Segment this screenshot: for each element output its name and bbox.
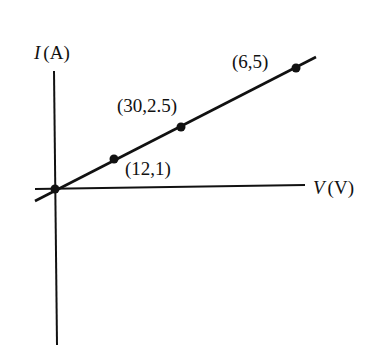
point-label-12-1: (12,1) xyxy=(125,158,171,180)
point-label-30-2.5: (30,2.5) xyxy=(117,95,177,117)
data-point-origin xyxy=(51,185,60,194)
x-axis xyxy=(35,185,305,189)
y-axis xyxy=(54,71,57,345)
data-line xyxy=(35,57,316,201)
point-label-6-5: (6,5) xyxy=(232,51,268,73)
y-axis-label: I(A) xyxy=(33,42,70,64)
data-point-6-5 xyxy=(292,64,301,73)
data-point-30-2.5 xyxy=(177,123,186,132)
x-axis-label: V(V) xyxy=(313,177,354,199)
data-point-12-1 xyxy=(110,155,119,164)
iv-graph: I(A) V(V) (6,5) (30,2.5) (12,1) xyxy=(0,0,383,351)
